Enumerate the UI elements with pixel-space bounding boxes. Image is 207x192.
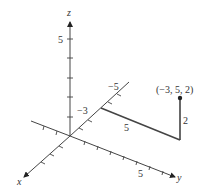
z-axis-label: z — [66, 7, 71, 18]
z-tick-label-5: 5 — [58, 34, 63, 45]
labels-layer: z x y 5 5 −3 −5 5 2 (−3, 5, 2) — [0, 0, 207, 192]
segment-y-length-label: 5 — [124, 122, 129, 133]
y-axis-label: y — [176, 172, 182, 183]
segment-z-length-label: 2 — [183, 115, 188, 126]
x-tick-label-neg3: −3 — [77, 105, 88, 116]
x-tick-label-neg5: −5 — [108, 81, 119, 92]
point-label: (−3, 5, 2) — [156, 84, 193, 96]
y-tick-label-5: 5 — [138, 168, 143, 179]
x-axis-label: x — [16, 176, 22, 187]
